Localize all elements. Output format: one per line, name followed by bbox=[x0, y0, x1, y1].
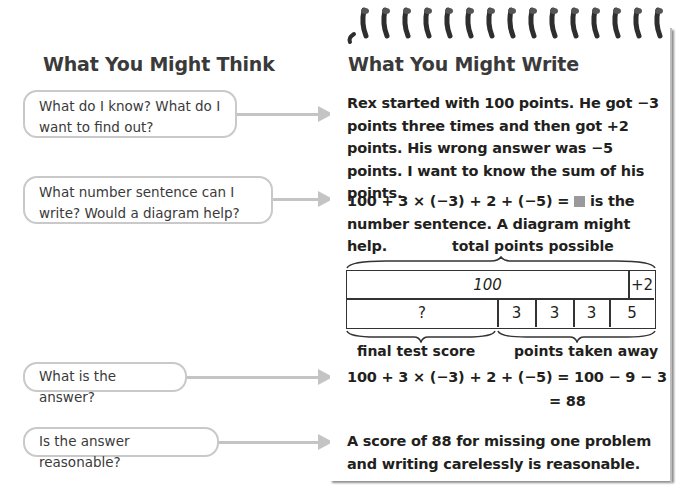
answer-line-1: 100 + 3 × (−3) + 2 + (−5) = 100 − 9 − 3 bbox=[347, 366, 677, 389]
think-bubble-answer: What is the answer? bbox=[23, 362, 187, 392]
reasonableness-statement: A score of 88 for missing one problem an… bbox=[347, 430, 665, 475]
bar-diagram: 100 +2 ? 3 3 3 5 bbox=[346, 270, 656, 329]
cell-total: 100 bbox=[347, 271, 628, 298]
think-bubble-know: What do I know? What do I want to find o… bbox=[23, 90, 237, 138]
arrow-right-icon bbox=[219, 441, 319, 444]
problem-restatement: Rex started with 100 points. He got −3 p… bbox=[347, 92, 665, 205]
equation-text: 100 + 3 × (−3) + 2 + (−5) = bbox=[347, 193, 569, 209]
cell-minus-3: 3 bbox=[574, 299, 609, 327]
arrow-right-icon bbox=[187, 376, 319, 379]
notebook-page-edge bbox=[670, 28, 672, 483]
bubble-text: What do I know? What do I want to find o… bbox=[39, 98, 220, 135]
answer-line-2: = 88 bbox=[549, 390, 586, 413]
top-brace-icon bbox=[346, 256, 656, 270]
arrow-right-icon bbox=[237, 113, 319, 116]
bubble-text: What is the answer? bbox=[39, 368, 116, 405]
cell-bonus: +2 bbox=[629, 271, 655, 298]
think-bubble-reasonable: Is the answer reasonable? bbox=[23, 427, 219, 457]
bubble-text: What number sentence can I write? Would … bbox=[39, 184, 240, 221]
diagram-top-label: total points possible bbox=[452, 238, 614, 254]
diagram-left-label: final test score bbox=[357, 343, 475, 359]
cell-minus-3: 3 bbox=[536, 299, 573, 327]
cell-minus-5: 5 bbox=[610, 299, 654, 327]
diagram-right-label: points taken away bbox=[514, 343, 658, 359]
arrow-right-icon bbox=[273, 198, 319, 201]
cell-minus-3: 3 bbox=[498, 299, 535, 327]
think-bubble-number-sentence: What number sentence can I write? Would … bbox=[23, 176, 273, 224]
unknown-box-icon bbox=[574, 196, 585, 207]
bubble-text: Is the answer reasonable? bbox=[39, 433, 130, 470]
bottom-braces-icon bbox=[346, 329, 656, 343]
write-heading: What You Might Write bbox=[348, 53, 579, 75]
think-heading: What You Might Think bbox=[43, 53, 275, 75]
cell-unknown: ? bbox=[347, 299, 497, 327]
spiral-binding-icon bbox=[338, 2, 678, 46]
